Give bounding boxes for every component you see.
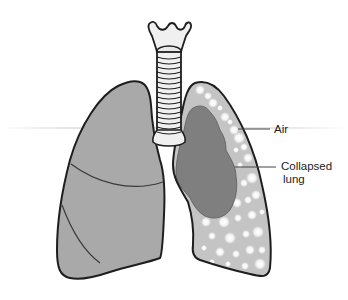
collapsed-label-line1: Collapsed	[281, 160, 332, 173]
right-lung	[57, 81, 165, 279]
air-label: Air	[274, 123, 288, 136]
collapsed-lung-label: Collapsed lung	[281, 160, 332, 186]
collapsed-label-line2: lung	[281, 173, 332, 186]
lung-diagram	[0, 0, 348, 300]
